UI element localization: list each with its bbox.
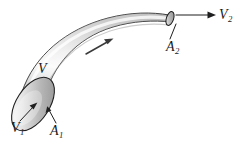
outlet-area-leader bbox=[170, 24, 176, 39]
outlet-area-subscript: 2 bbox=[175, 46, 180, 56]
inlet-area-leader bbox=[46, 106, 56, 123]
outlet-velocity-arrow bbox=[176, 12, 216, 19]
inlet-velocity-label: V1 bbox=[11, 121, 24, 136]
outlet-velocity-subscript: 2 bbox=[228, 14, 233, 24]
volume-label: V bbox=[38, 62, 47, 76]
figure-canvas bbox=[0, 0, 242, 144]
outlet-velocity-label: V2 bbox=[219, 8, 232, 23]
inlet-velocity-subscript: 1 bbox=[20, 127, 25, 137]
outlet-velocity-arrowhead bbox=[208, 12, 217, 19]
outlet-area-face bbox=[164, 11, 175, 27]
inlet-area-label: A1 bbox=[50, 124, 63, 139]
stream-tube-figure: V V1 A1 A2 V2 bbox=[0, 0, 242, 144]
inlet-area-subscript: 1 bbox=[59, 130, 64, 140]
flow-direction-arrow bbox=[86, 39, 114, 54]
outlet-opening bbox=[164, 11, 175, 27]
outlet-area-label: A2 bbox=[166, 40, 179, 55]
